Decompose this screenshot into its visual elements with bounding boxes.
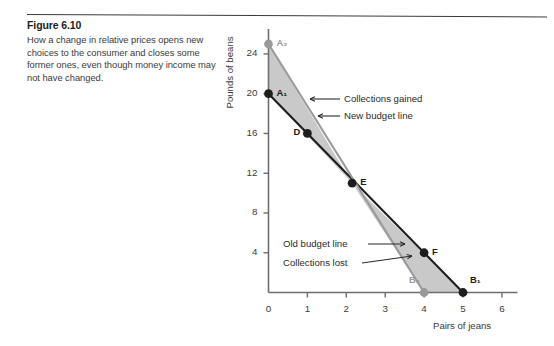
arrow-collections-gained — [310, 97, 340, 101]
y-tick-label: 20 — [236, 87, 258, 98]
point-label-a1: A₁ — [277, 87, 288, 98]
data-point-e — [348, 179, 357, 188]
y-tick-label: 8 — [236, 206, 258, 217]
x-axis-title: Pairs of jeans — [433, 320, 491, 331]
annotation-old-budget-line: Old budget line — [283, 238, 348, 249]
figure-panel: Figure 6.10 How a change in relative pri… — [0, 0, 554, 346]
x-tick-label: 1 — [299, 303, 315, 314]
data-point-d — [303, 129, 312, 138]
y-tick-label: 16 — [236, 127, 258, 138]
y-tick-label: 12 — [236, 167, 258, 178]
point-label-b2: B₂ — [409, 274, 420, 285]
x-tick-label: 0 — [261, 303, 277, 314]
data-point-b1 — [459, 288, 468, 297]
chart-canvas — [0, 0, 554, 346]
y-tick-label: 4 — [236, 246, 258, 257]
data-point-a1 — [264, 89, 273, 98]
data-point-a2 — [264, 40, 273, 49]
budget-line-chart: Pounds of beans Pairs of jeans 481216202… — [0, 0, 554, 346]
x-tick-label: 3 — [377, 303, 393, 314]
y-tick-label: 24 — [236, 47, 258, 58]
point-label-b1: B₁ — [470, 274, 481, 285]
point-label-e: E — [360, 176, 366, 187]
y-axis-title: Pounds of beans — [224, 95, 235, 109]
point-label-a2: A₂ — [277, 37, 288, 48]
series-new-budget-line — [269, 44, 425, 293]
x-tick-label: 2 — [338, 303, 354, 314]
annotation-new-budget-line: New budget line — [344, 110, 413, 121]
x-tick-label: 6 — [494, 303, 510, 314]
data-point-b2 — [420, 288, 429, 297]
annotation-collections-lost: Collections lost — [283, 257, 348, 268]
x-tick-label: 4 — [416, 303, 432, 314]
x-tick-label: 5 — [455, 303, 471, 314]
point-label-d: D — [293, 126, 300, 137]
data-point-f — [420, 248, 429, 257]
arrow-new-budget-line — [318, 114, 340, 118]
annotation-collections-gained: Collections gained — [344, 93, 422, 104]
point-label-f: F — [432, 246, 438, 257]
